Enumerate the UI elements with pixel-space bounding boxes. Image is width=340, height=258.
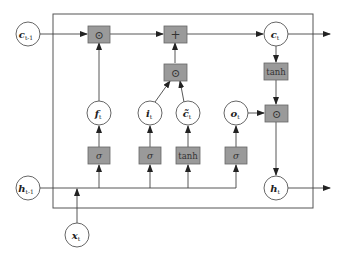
svg-text:⊙: ⊙ [272,108,281,121]
tanh-candidate-box: tanh [176,147,200,164]
svg-text:⊙: ⊙ [94,29,103,42]
sigma-output-box: σ [225,147,247,164]
input-mult-box: ⊙ [164,64,187,81]
output-mult-box: ⊙ [265,105,288,122]
tanh-output-box: tanh [264,63,288,80]
svg-text:⊙: ⊙ [171,67,180,80]
svg-text:tanh: tanh [266,67,286,77]
sigma-forget-box: σ [88,147,110,164]
svg-text:tanh: tanh [178,151,198,161]
sigma-input-box: σ [139,147,161,164]
svg-text:σ: σ [233,151,240,161]
lstm-diagram: ⊙ + ⊙ tanh ⊙ σ σ tanh [0,0,340,258]
state-nodes [16,22,288,247]
forget-mult-box: ⊙ [88,26,110,43]
svg-text:σ: σ [96,151,103,161]
add-box: + [164,26,187,43]
svg-text:+: + [170,28,180,42]
svg-text:σ: σ [147,151,154,161]
